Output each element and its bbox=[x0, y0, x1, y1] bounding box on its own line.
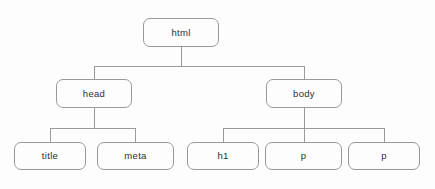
node-title[interactable]: title bbox=[14, 142, 86, 170]
node-body-label: body bbox=[293, 89, 315, 99]
node-head[interactable]: head bbox=[56, 79, 132, 108]
node-p-first-label: p bbox=[301, 151, 307, 161]
node-meta[interactable]: meta bbox=[97, 142, 174, 170]
node-meta-label: meta bbox=[124, 151, 146, 161]
node-h1[interactable]: h1 bbox=[187, 142, 259, 170]
node-html[interactable]: html bbox=[143, 18, 219, 47]
node-title-label: title bbox=[42, 151, 58, 161]
node-h1-label: h1 bbox=[217, 151, 228, 161]
node-p-second-label: p bbox=[381, 151, 387, 161]
node-head-label: head bbox=[83, 89, 105, 99]
node-p-second[interactable]: p bbox=[348, 142, 420, 170]
node-body[interactable]: body bbox=[266, 79, 342, 108]
node-p-first[interactable]: p bbox=[265, 142, 342, 170]
dom-tree-diagram: html head body title meta h1 p p bbox=[0, 0, 435, 189]
node-html-label: html bbox=[171, 28, 190, 38]
